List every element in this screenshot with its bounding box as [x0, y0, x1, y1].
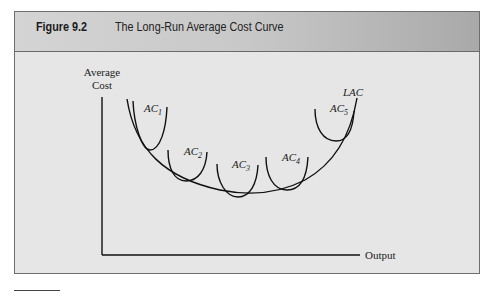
lac-label: LAC [342, 86, 364, 98]
x-axis-label: Output [365, 249, 396, 261]
footnote-rule [14, 290, 60, 291]
cost-curve-diagram: Average Cost Output AC1 AC2 AC3 AC4 AC5 … [0, 0, 494, 296]
y-axis-label-line2: Cost [92, 79, 112, 91]
ac5-label: AC5 [329, 102, 348, 117]
ac2-label: AC2 [183, 145, 202, 160]
ac1-label: AC1 [143, 102, 162, 117]
ac4-label: AC4 [281, 151, 300, 166]
ac3-label: AC3 [231, 158, 250, 173]
y-axis-label-line1: Average [84, 66, 121, 78]
